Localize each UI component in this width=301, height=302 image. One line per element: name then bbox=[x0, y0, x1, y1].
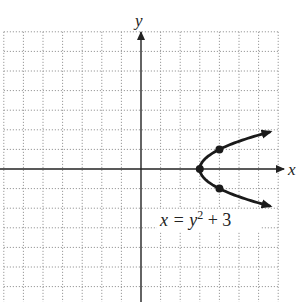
equation-label: x = y2 + 3 bbox=[159, 208, 231, 230]
parabola-upper-branch bbox=[200, 132, 271, 169]
plotted-point bbox=[215, 145, 223, 153]
plotted-point bbox=[215, 185, 223, 193]
parabola-lower-branch bbox=[200, 169, 271, 206]
y-axis-label: y bbox=[133, 11, 143, 30]
equation-base: x = y bbox=[159, 210, 197, 230]
plotted-point bbox=[196, 165, 204, 173]
x-axis-label: x bbox=[287, 160, 296, 179]
equation-tail: + 3 bbox=[203, 210, 231, 230]
parabola-graph: x y x = y2 + 3 bbox=[0, 0, 301, 302]
